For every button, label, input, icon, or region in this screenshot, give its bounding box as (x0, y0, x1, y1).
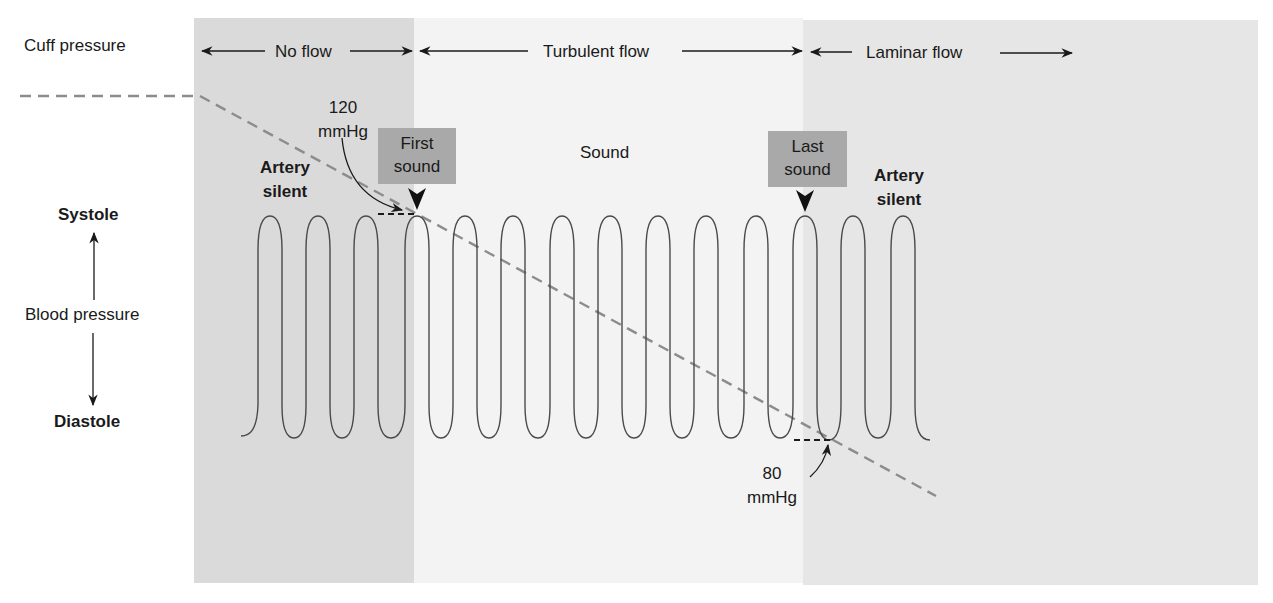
diastole-label: Diastole (54, 412, 120, 432)
systole-label: Systole (58, 205, 118, 225)
artery-silent-right-line2: silent (864, 188, 934, 212)
last-sound-line1: Last (768, 135, 847, 158)
last-sound-line2: sound (768, 158, 847, 181)
blood-pressure-label: Blood pressure (25, 305, 139, 325)
first-sound-line2: sound (378, 155, 456, 178)
no-flow-label: No flow (275, 42, 332, 62)
artery-silent-left-line2: silent (250, 180, 320, 204)
diastolic-pressure-label: 80 mmHg (732, 462, 812, 510)
turbulent-flow-label: Turbulent flow (543, 42, 649, 62)
systolic-value: 120 (303, 96, 383, 120)
systolic-pressure-label: 120 mmHg (303, 96, 383, 144)
last-sound-pointer-icon (796, 190, 814, 212)
diastolic-value: 80 (732, 462, 812, 486)
blood-pressure-waveform (241, 216, 930, 440)
diastolic-pointer-arrow (810, 445, 828, 477)
first-sound-line1: First (378, 132, 456, 155)
artery-silent-left-label: Artery silent (250, 156, 320, 204)
first-sound-pointer-icon (408, 188, 426, 210)
last-sound-box: Last sound (768, 131, 847, 187)
sound-label: Sound (580, 143, 629, 163)
artery-silent-right-line1: Artery (864, 164, 934, 188)
artery-silent-right-label: Artery silent (864, 164, 934, 212)
artery-silent-left-line1: Artery (250, 156, 320, 180)
diastolic-unit: mmHg (732, 486, 812, 510)
first-sound-box: First sound (378, 128, 456, 184)
cuff-pressure-label: Cuff pressure (24, 36, 126, 56)
diagram-drawing (0, 0, 1273, 603)
laminar-flow-label: Laminar flow (866, 43, 962, 63)
systolic-unit: mmHg (303, 120, 383, 144)
